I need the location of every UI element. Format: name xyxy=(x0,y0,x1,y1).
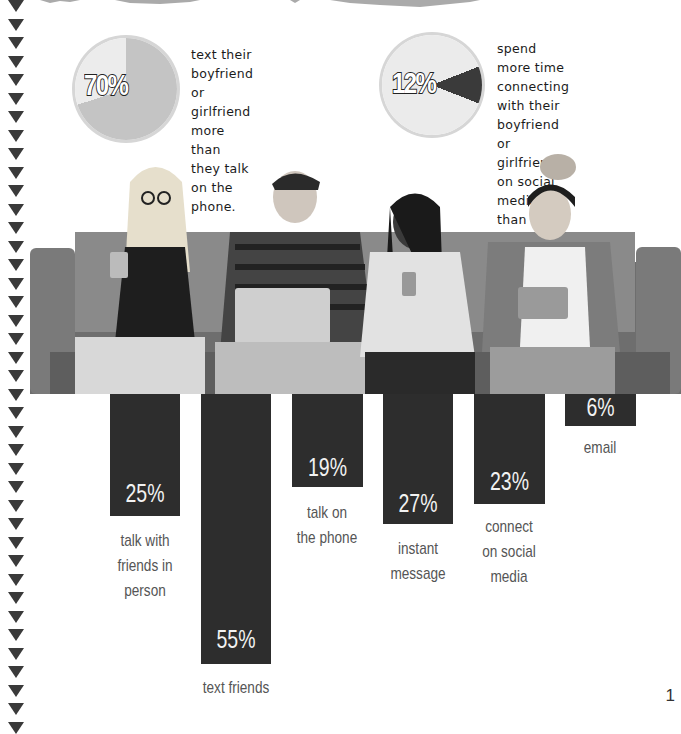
triangle-icon xyxy=(8,389,24,401)
triangle-icon xyxy=(8,130,24,142)
bar-label-email: email xyxy=(564,435,636,460)
triangle-icon xyxy=(8,37,24,49)
triangle-icon xyxy=(8,666,24,678)
triangle-icon xyxy=(8,296,24,308)
torn-paper-edge xyxy=(20,0,680,8)
bar-label-social-media: connecton socialmedia xyxy=(473,514,545,589)
bar-label-instant-message: instantmessage xyxy=(382,536,454,586)
teens-on-couch-photo xyxy=(30,152,681,394)
bar-talk-on-phone: 19% xyxy=(292,394,363,487)
triangle-icon xyxy=(8,426,24,438)
bar-talk-in-person: 25% xyxy=(110,394,180,516)
triangle-icon xyxy=(8,259,24,271)
triangle-icon xyxy=(8,574,24,586)
triangle-icon xyxy=(8,703,24,715)
triangle-icon xyxy=(8,463,24,475)
bar-label-text-friends: text friends xyxy=(192,675,280,700)
triangle-icon xyxy=(8,537,24,549)
triangle-icon xyxy=(8,315,24,327)
bar-label-talk-in-person: talk withfriends inperson xyxy=(109,528,181,603)
triangle-icon xyxy=(8,370,24,382)
triangle-icon xyxy=(8,611,24,623)
bar-email: 6% xyxy=(565,394,636,426)
triangle-icon xyxy=(8,204,24,216)
pie-value: 12% xyxy=(392,66,435,100)
triangle-icon xyxy=(8,592,24,604)
triangle-icon xyxy=(8,167,24,179)
pie-value: 70% xyxy=(84,68,127,102)
triangle-icon xyxy=(8,481,24,493)
triangle-icon xyxy=(8,685,24,697)
triangle-icon xyxy=(8,0,24,12)
triangle-icon xyxy=(8,56,24,68)
triangle-icon xyxy=(8,148,24,160)
triangle-icon xyxy=(8,555,24,567)
triangle-icon xyxy=(8,518,24,530)
bar-social-media: 23% xyxy=(474,394,545,504)
triangle-icon xyxy=(8,241,24,253)
page-number: 1 xyxy=(666,686,675,706)
triangle-icon xyxy=(8,444,24,456)
triangle-icon xyxy=(8,352,24,364)
triangle-icon xyxy=(8,629,24,641)
triangle-icon xyxy=(8,185,24,197)
triangle-icon xyxy=(8,222,24,234)
bar-text-friends: 55% xyxy=(201,394,271,664)
triangle-border xyxy=(3,0,25,723)
triangle-icon xyxy=(8,19,24,31)
triangle-icon xyxy=(8,278,24,290)
triangle-icon xyxy=(8,74,24,86)
bar-instant-message: 27% xyxy=(383,394,453,524)
triangle-icon xyxy=(8,722,24,734)
triangle-icon xyxy=(8,500,24,512)
triangle-icon xyxy=(8,93,24,105)
triangle-icon xyxy=(8,648,24,660)
triangle-icon xyxy=(8,407,24,419)
triangle-icon xyxy=(8,111,24,123)
bar-label-talk-on-phone: talk onthe phone xyxy=(291,500,363,550)
triangle-icon xyxy=(8,333,24,345)
